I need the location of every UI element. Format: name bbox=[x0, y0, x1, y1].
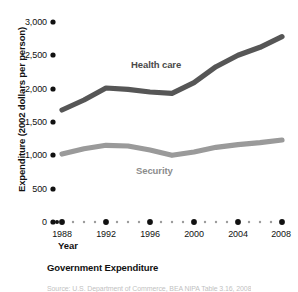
y-axis-tick-marks bbox=[50, 19, 55, 224]
y-tick-label-2000: 2,000 bbox=[5, 84, 47, 94]
figure-government-expenditure: Expenditure (2002 dollars per person) 3,… bbox=[0, 0, 298, 292]
y-tick-label-500: 500 bbox=[5, 184, 47, 194]
y-tick-label-2500: 2,500 bbox=[5, 50, 47, 60]
plot-area: Expenditure (2002 dollars per person) 3,… bbox=[0, 0, 298, 250]
x-tick-label-1992: 1992 bbox=[89, 229, 123, 239]
x-tick-label-2004: 2004 bbox=[221, 229, 255, 239]
series-line-health-care bbox=[62, 37, 282, 110]
x-tick-label-2008: 2008 bbox=[264, 229, 298, 239]
y-axis-title: Expenditure (2002 dollars per person) bbox=[16, 5, 27, 215]
x-axis-tick-marks bbox=[55, 219, 285, 225]
x-axis-title: Year bbox=[48, 240, 88, 251]
series-annotation-health-care: Health care bbox=[131, 59, 181, 70]
x-tick-label-2000: 2000 bbox=[177, 229, 211, 239]
y-tick-label-3000: 3,000 bbox=[5, 17, 47, 27]
figure-caption: Government Expenditure bbox=[47, 262, 158, 273]
series-annotation-security: Security bbox=[136, 165, 173, 176]
figure-source-note: Source: U.S. Department of Commerce, BEA… bbox=[47, 285, 251, 292]
x-tick-label-1988: 1988 bbox=[45, 229, 79, 239]
y-tick-label-0: 0 bbox=[5, 217, 47, 227]
x-tick-label-1996: 1996 bbox=[133, 229, 167, 239]
series-line-security bbox=[62, 140, 282, 155]
y-tick-label-1000: 1,000 bbox=[5, 150, 47, 160]
y-tick-label-1500: 1,500 bbox=[5, 117, 47, 127]
